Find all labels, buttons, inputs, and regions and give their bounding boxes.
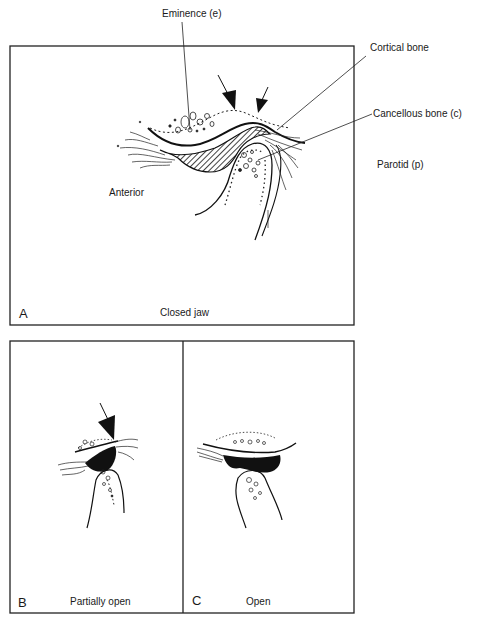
label-parotid: Parotid (p) xyxy=(377,159,424,170)
panel-a-letter: A xyxy=(19,306,28,321)
panel-bc-frame xyxy=(10,341,354,613)
figure-drawing xyxy=(0,0,479,626)
label-cortical-bone: Cortical bone xyxy=(370,42,429,53)
panel-b-letter: B xyxy=(18,595,27,610)
tmj-open-drawing xyxy=(197,432,296,528)
panel-a-caption: Closed jaw xyxy=(160,307,209,318)
label-cancellous-bone: Cancellous bone (c) xyxy=(373,108,462,119)
label-eminence: Eminence (e) xyxy=(162,8,221,19)
tmj-closed-drawing xyxy=(117,22,372,240)
panel-a-frame xyxy=(10,46,354,325)
panel-c-letter: C xyxy=(192,593,201,608)
panel-b-caption: Partially open xyxy=(70,596,131,607)
panel-c-caption: Open xyxy=(246,596,270,607)
tmj-partially-open-drawing xyxy=(58,403,138,528)
label-anterior: Anterior xyxy=(109,187,144,198)
